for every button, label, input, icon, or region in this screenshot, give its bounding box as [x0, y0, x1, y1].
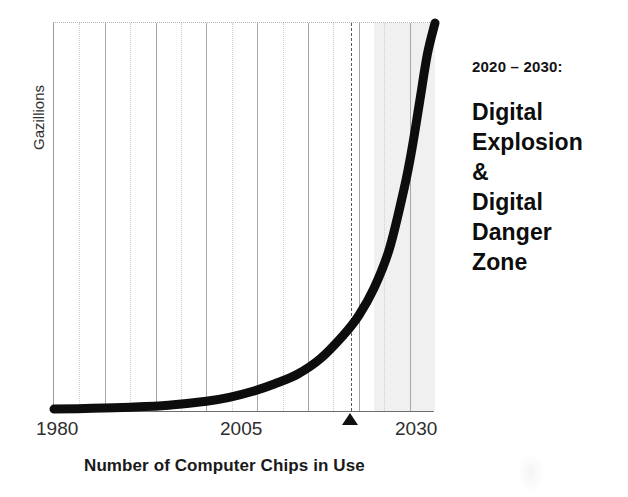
data-curve: [54, 23, 435, 413]
x-tick-label-2005: 2005: [220, 418, 262, 440]
annotation-line: Digital: [472, 97, 612, 127]
annotation-line: Danger: [472, 217, 612, 247]
annotation-line: &: [472, 157, 612, 187]
annotation-line: Zone: [472, 247, 612, 277]
x-tick-label-1980: 1980: [36, 418, 78, 440]
curve-path: [54, 23, 435, 409]
y-axis-title: Gazillions: [28, 20, 50, 150]
x-axis-title: Number of Computer Chips in Use: [84, 456, 365, 476]
scan-artifact: [518, 452, 544, 494]
plot-area: [53, 22, 434, 412]
annotation-line: Explosion: [472, 127, 612, 157]
y-axis-title-label: Gazillions: [28, 20, 50, 150]
annotation-lines: DigitalExplosion&DigitalDangerZone: [472, 97, 612, 277]
annotation-line: Digital: [472, 187, 612, 217]
chart-canvas: Gazillions 1980 2005 2030 Number of Comp…: [0, 0, 628, 497]
annotation-block: 2020 – 2030: DigitalExplosion&DigitalDan…: [472, 58, 612, 277]
up-triangle-marker: [342, 413, 358, 425]
x-tick-label-2030: 2030: [395, 418, 437, 440]
annotation-period-label: 2020 – 2030:: [472, 58, 612, 75]
